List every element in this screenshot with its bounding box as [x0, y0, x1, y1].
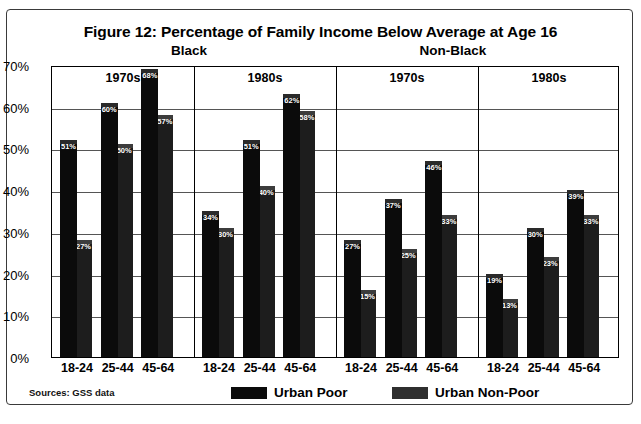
legend-swatch-urban-poor [231, 387, 267, 399]
panel-black-1980s: 1980s34%30%51%40%62%58% [194, 67, 336, 357]
panel-label: 1970s [52, 71, 194, 85]
x-axis-tick: 45-64 [276, 361, 324, 375]
bar-value-label: 30% [528, 231, 543, 239]
bar-face [344, 244, 361, 357]
bar-value-label: 39% [568, 193, 583, 201]
bar-group: 68%57% [141, 67, 177, 357]
x-axis-tick: 45-64 [134, 361, 182, 375]
panel-non-black-1980s: 1980s19%13%30%23%39%33% [478, 67, 620, 357]
bar-face [217, 232, 234, 357]
bar-value-label: 30% [218, 231, 233, 239]
bar-group: 34%30% [202, 67, 238, 357]
bar-face [582, 219, 599, 357]
bar-group: 37%25% [385, 67, 421, 357]
panel-label: 1970s [336, 71, 478, 85]
bar-value-label: 23% [543, 260, 558, 268]
bar-value-label: 37% [386, 202, 401, 210]
legend-item-urban-poor: Urban Poor [231, 385, 348, 400]
bar-value-label: 33% [583, 218, 598, 226]
bar-nonpoor-45-64: 33% [582, 215, 599, 357]
bar-face [60, 144, 77, 357]
sources-note: Sources: GSS data [29, 387, 115, 398]
bar-nonpoor-18-24: 27% [75, 240, 92, 357]
bar-poor-18-24: 34% [202, 211, 219, 357]
bar-poor-45-64: 39% [567, 190, 584, 357]
y-axis-tick: 10% [0, 309, 29, 324]
bar-poor-25-44: 37% [385, 199, 402, 357]
bar-poor-45-64: 46% [425, 161, 442, 357]
legend-label-urban-non-poor: Urban Non-Poor [435, 385, 539, 400]
bar-value-label: 27% [345, 243, 360, 251]
bar-group: 51%27% [60, 67, 96, 357]
bar-face [202, 215, 219, 357]
panel-non-black-1970s: 1970s27%15%37%25%46%33% [336, 67, 478, 357]
bar-poor-45-64: 68% [141, 69, 158, 357]
y-axis-tick: 0% [0, 351, 29, 366]
legend-swatch-urban-non-poor [392, 387, 428, 399]
bar-face [425, 165, 442, 357]
bar-value-label: 51% [61, 143, 76, 151]
bar-value-label: 34% [203, 214, 218, 222]
bar-poor-25-44: 51% [243, 140, 260, 357]
bar-face [75, 244, 92, 357]
bar-nonpoor-18-24: 13% [501, 299, 518, 357]
y-axis-tick: 70% [0, 59, 29, 74]
legend-item-urban-non-poor: Urban Non-Poor [392, 385, 539, 400]
bar-face [141, 73, 158, 357]
figure-frame: Figure 12: Percentage of Family Income B… [6, 9, 633, 405]
bar-group: 51%40% [243, 67, 279, 357]
bar-nonpoor-25-44: 40% [258, 186, 275, 357]
y-axis-tick: 60% [0, 100, 29, 115]
bar-nonpoor-45-64: 33% [440, 215, 457, 357]
bar-nonpoor-18-24: 30% [217, 228, 234, 357]
plot-area: 1970s51%27%60%50%68%57%1980s34%30%51%40%… [51, 66, 619, 358]
bar-face [542, 261, 559, 357]
bar-face [298, 115, 315, 357]
page-title: Figure 12: Percentage of Family Income B… [7, 23, 634, 41]
bar-value-label: 33% [441, 218, 456, 226]
bar-nonpoor-25-44: 50% [116, 144, 133, 357]
bar-face [567, 194, 584, 357]
bar-poor-18-24: 19% [486, 274, 503, 357]
bar-poor-18-24: 51% [60, 140, 77, 357]
y-axis-tick: 50% [0, 142, 29, 157]
bar-poor-45-64: 62% [283, 94, 300, 357]
y-axis-tick: 40% [0, 184, 29, 199]
panel-black-1970s: 1970s51%27%60%50%68%57% [52, 67, 194, 357]
bar-group: 60%50% [101, 67, 137, 357]
bar-value-label: 19% [487, 277, 502, 285]
bar-value-label: 46% [426, 164, 441, 172]
bar-nonpoor-25-44: 25% [400, 249, 417, 357]
y-axis-tick: 20% [0, 267, 29, 282]
bar-face [359, 294, 376, 357]
bar-value-label: 25% [401, 252, 416, 260]
group-header-non-black: Non-Black [323, 43, 583, 58]
bar-face [385, 203, 402, 357]
x-axis-tick: 45-64 [418, 361, 466, 375]
bar-nonpoor-18-24: 15% [359, 290, 376, 357]
bar-group: 62%58% [283, 67, 319, 357]
panel-label: 1980s [194, 71, 336, 85]
bar-value-label: 13% [502, 302, 517, 310]
bar-face [400, 253, 417, 357]
bar-face [116, 148, 133, 357]
group-header-black: Black [59, 43, 319, 58]
bar-group: 39%33% [567, 67, 603, 357]
bar-nonpoor-45-64: 57% [156, 115, 173, 357]
bar-value-label: 40% [259, 189, 274, 197]
bar-poor-18-24: 27% [344, 240, 361, 357]
bar-face [101, 107, 118, 357]
bar-value-label: 50% [117, 147, 132, 155]
bar-nonpoor-25-44: 23% [542, 257, 559, 357]
bar-value-label: 15% [360, 293, 375, 301]
bar-face [501, 303, 518, 357]
bar-group: 19%13% [486, 67, 522, 357]
bar-poor-25-44: 60% [101, 103, 118, 357]
bar-value-label: 60% [102, 106, 117, 114]
y-axis-tick: 30% [0, 225, 29, 240]
bar-poor-25-44: 30% [527, 228, 544, 357]
panel-label: 1980s [478, 71, 620, 85]
bar-face [258, 190, 275, 357]
bar-value-label: 57% [157, 118, 172, 126]
bar-face [486, 278, 503, 357]
